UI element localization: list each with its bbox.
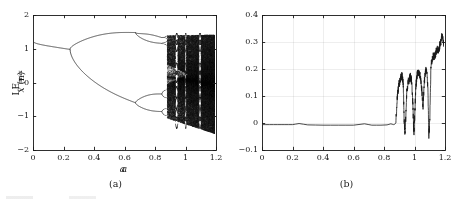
panel-a-caption: (a) bbox=[0, 178, 231, 189]
panel-b-y-axis-label: LEmax bbox=[11, 60, 23, 104]
figure-root: x (n) a (a) LEmax a (b) bbox=[0, 0, 462, 203]
panel-lyapunov-exponent: LEmax a (b) bbox=[231, 0, 462, 203]
panel-b-x-axis-label: a bbox=[31, 164, 214, 174]
panel-b-caption: (b) bbox=[231, 178, 462, 189]
page-edge-artifact bbox=[6, 196, 156, 199]
panel-b-y-axis-label-main: LE bbox=[11, 82, 21, 95]
panel-b-y-axis-label-subscript: max bbox=[16, 70, 23, 83]
lyapunov-plot-canvas bbox=[231, 0, 462, 203]
